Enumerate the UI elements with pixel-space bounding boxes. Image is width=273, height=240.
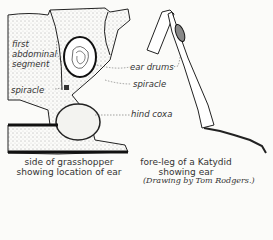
drawing-credit: (Drawing by Tom Rodgers.) <box>143 176 255 185</box>
label-segment: segment <box>12 60 49 69</box>
caption-left: side of grasshopper showing location of … <box>14 157 124 178</box>
label-spiracle-left: spiracle <box>11 86 44 95</box>
label-first: first <box>12 40 29 49</box>
caption-right-line1: fore-leg of a Katydid <box>136 157 236 167</box>
label-spiracle: spiracle <box>133 80 166 89</box>
caption-left-line2: showing location of ear <box>14 167 124 177</box>
caption-left-line1: side of grasshopper <box>14 157 124 167</box>
label-ear-drums: ear drums <box>130 63 174 72</box>
caption-right: fore-leg of a Katydid showing ear <box>136 157 236 178</box>
label-abdominal: abdominal <box>12 50 57 59</box>
label-hind-coxa: hind coxa <box>131 110 172 119</box>
